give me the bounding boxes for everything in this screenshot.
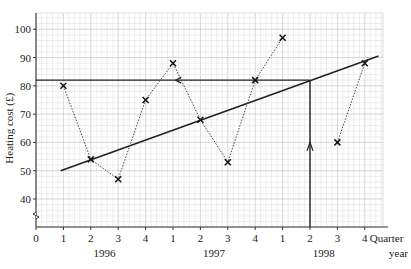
y-tick-label: 90 [20, 52, 32, 64]
grid [36, 13, 383, 227]
year-label: 1998 [313, 247, 336, 259]
year-label: 1997 [203, 247, 226, 259]
x-tick-label: 3 [115, 232, 121, 244]
x-tick-label: 2 [198, 232, 204, 244]
y-tick-label: 60 [20, 136, 32, 148]
x-tick-label: 0 [33, 232, 39, 244]
x-tick-label: 4 [252, 232, 258, 244]
x-tick-label: 1 [280, 232, 286, 244]
x-axis-label-year: year [389, 247, 408, 259]
x-tick-label: 4 [362, 232, 368, 244]
year-label: 1996 [94, 247, 117, 259]
x-tick-label: 4 [143, 232, 149, 244]
x-tick-label: 1 [170, 232, 176, 244]
y-tick-label: 40 [20, 193, 32, 205]
y-tick-label: 70 [20, 108, 32, 120]
x-tick-label: 1 [61, 232, 67, 244]
y-tick-label: 50 [20, 165, 32, 177]
x-tick-label: 3 [225, 232, 231, 244]
x-tick-label: 3 [335, 232, 341, 244]
y-tick-label: 100 [15, 23, 32, 35]
y-tick-label: 80 [20, 80, 32, 92]
x-tick-label: 2 [307, 232, 313, 244]
x-axis-label: Quarter [370, 232, 404, 244]
axis-break-icon [33, 212, 39, 219]
x-tick-label: 2 [88, 232, 94, 244]
y-axis-label: Heating cost (£) [3, 92, 16, 163]
heating-cost-chart: 4050607080901000123412341234199619971998… [0, 0, 411, 269]
